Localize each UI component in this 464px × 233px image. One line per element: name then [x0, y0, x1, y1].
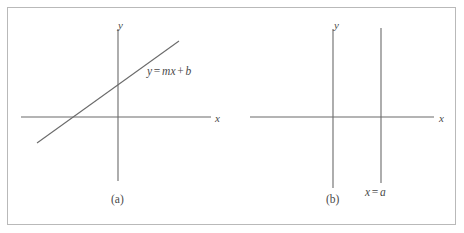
figure-frame: y x y=mx+b (a) y x [7, 7, 456, 225]
panel-b-y-axis-label: y [334, 20, 339, 31]
panel-a-y-axis-label: y [118, 20, 123, 31]
figure-root: y x y=mx+b (a) y x [0, 0, 464, 233]
panel-b-x-axis-label: x [439, 113, 444, 124]
panel-a-caption: (a) [111, 194, 124, 206]
panel-b-plot [240, 8, 464, 226]
equation-equals-sign: = [152, 65, 162, 77]
equation-intercept-term: b [186, 65, 192, 77]
panel-b-caption: (b) [326, 194, 339, 206]
panel-a-plot [8, 8, 240, 226]
panel-a-equation-label: y=mx+b [147, 66, 191, 78]
panel-b: y x x=a (b) [240, 8, 464, 224]
panel-b-equation-label: x=a [365, 187, 386, 199]
panel-a-line-y-mx-b [37, 41, 179, 143]
equation-plus-sign: + [176, 65, 186, 77]
equation-equals-sign: = [370, 186, 380, 198]
panel-a: y x y=mx+b (a) [8, 8, 240, 224]
equation-rhs: a [380, 186, 386, 198]
panel-a-x-axis-label: x [215, 113, 220, 124]
equation-slope-term: mx [162, 65, 176, 77]
